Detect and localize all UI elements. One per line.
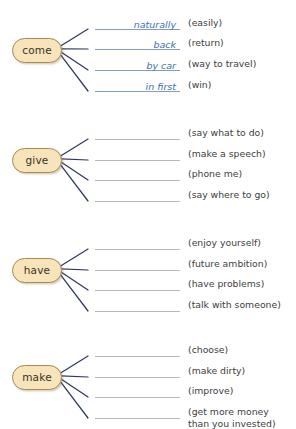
answer-text: in first [146, 82, 176, 92]
answer-slot-blank[interactable] [95, 298, 180, 312]
hint-text: (have problems) [188, 278, 296, 290]
answer-slot-blank[interactable] [95, 236, 180, 250]
answer-text: by car [146, 61, 176, 71]
answer-rule [95, 139, 180, 140]
connector-line [61, 275, 88, 311]
hint-text: (say where to go) [188, 189, 296, 201]
connector-line [61, 162, 88, 180]
answer-slot-blank[interactable] [95, 343, 180, 357]
answer-text: back [153, 40, 176, 50]
verb-node-label: have [24, 265, 51, 276]
connector-line [61, 55, 88, 91]
verb-node-make[interactable]: make [12, 365, 62, 390]
connector-line [61, 159, 88, 160]
connector-line [61, 249, 88, 266]
answer-slot-filled[interactable]: in first [95, 78, 180, 92]
connector-line [61, 269, 88, 270]
hint-text: (easily) [188, 17, 296, 29]
verb-node-label: make [22, 372, 52, 383]
hint-text: (improve) [188, 385, 296, 397]
verb-node-give[interactable]: give [12, 148, 62, 173]
hint-text: (say what to do) [188, 127, 296, 139]
verb-node-label: give [25, 155, 48, 166]
answer-rule [95, 311, 180, 312]
answer-slot-filled[interactable]: naturally [95, 16, 180, 30]
connector-line [61, 165, 88, 201]
hint-text: (talk with someone) [188, 299, 296, 311]
answer-slot-blank[interactable] [95, 147, 180, 161]
connector-line [61, 52, 88, 70]
connector-line [61, 356, 88, 373]
answer-rule [95, 270, 180, 271]
answer-slot-blank[interactable] [95, 188, 180, 202]
answer-slot-blank[interactable] [95, 277, 180, 291]
connector-line [61, 382, 88, 418]
hint-text: (return) [188, 37, 296, 49]
verb-node-label: come [22, 45, 52, 56]
hint-text: (choose) [188, 344, 296, 356]
answer-rule [95, 249, 180, 250]
answer-rule [95, 377, 180, 378]
connector-line [61, 379, 88, 397]
answer-slot-blank[interactable] [95, 167, 180, 181]
answer-rule [95, 356, 180, 357]
hint-text: (win) [188, 79, 296, 91]
answer-slot-blank[interactable] [95, 384, 180, 398]
connector-line [61, 272, 88, 290]
answer-rule [95, 290, 180, 291]
verb-node-come[interactable]: come [12, 38, 62, 63]
answer-rule [95, 180, 180, 181]
collocation-worksheet: comegivehavemake naturallybackby carin f… [0, 0, 296, 429]
connector-line [61, 29, 88, 46]
answer-slot-filled[interactable]: back [95, 36, 180, 50]
answer-slot-blank[interactable] [95, 257, 180, 271]
answer-slot-blank[interactable] [95, 405, 180, 419]
hint-text: (future ambition) [188, 258, 296, 270]
connector-line [61, 376, 88, 377]
connector-line [61, 139, 88, 156]
hint-text: (way to travel) [188, 58, 296, 70]
hint-text: (make dirty) [188, 365, 296, 377]
answer-rule [95, 160, 180, 161]
answer-rule [95, 201, 180, 202]
hint-text: (enjoy yourself) [188, 237, 296, 249]
answer-rule [95, 418, 180, 419]
hint-text: (make a speech) [188, 148, 296, 160]
answer-slot-blank[interactable] [95, 126, 180, 140]
answer-text: naturally [134, 20, 176, 30]
answer-rule [95, 397, 180, 398]
hint-text: (get more money than you invested) [188, 406, 296, 429]
verb-node-have[interactable]: have [12, 258, 62, 283]
answer-slot-filled[interactable]: by car [95, 57, 180, 71]
hint-text: (phone me) [188, 168, 296, 180]
answer-slot-blank[interactable] [95, 364, 180, 378]
